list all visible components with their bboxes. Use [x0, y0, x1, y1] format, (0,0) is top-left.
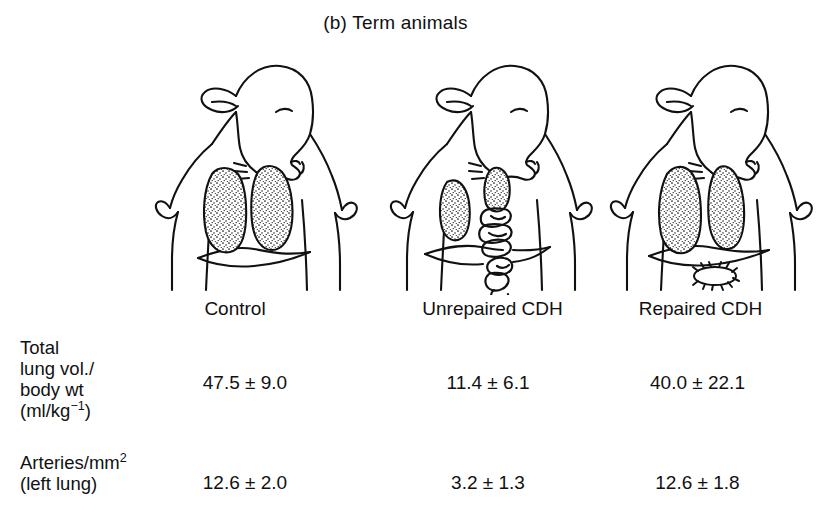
lamb-diagram-repaired-cdh	[605, 50, 817, 295]
value-lungvol-repaired: 40.0 ± 22.1	[600, 372, 795, 394]
value-lungvol-control: 47.5 ± 9.0	[165, 372, 325, 394]
column-header-unrepaired-cdh: Unrepaired CDH	[390, 298, 595, 320]
unit-close-paren: )	[85, 400, 91, 421]
bowel-loops-abdomen	[485, 258, 512, 295]
row-label-line-2: (left lung)	[20, 473, 127, 494]
row-label-line-1: Total	[20, 337, 94, 358]
arteries-text: Arteries/mm	[20, 452, 120, 473]
row-label-line-1: Arteries/mm2	[20, 452, 127, 473]
lamb-diagram-unrepaired-cdh	[385, 50, 600, 295]
arteries-exponent: 2	[120, 451, 127, 465]
page-title: (b) Term animals	[0, 12, 791, 34]
row-label-line-2: lung vol./	[20, 358, 94, 379]
row-label-line-3: body wt	[20, 379, 94, 400]
column-header-repaired-cdh: Repaired CDH	[608, 298, 793, 320]
column-header-control: Control	[160, 298, 310, 320]
row-label-total-lung-volume: Total lung vol./ body wt (ml/kg−1)	[20, 337, 94, 421]
value-arteries-repaired: 12.6 ± 1.8	[600, 472, 795, 494]
row-label-arteries-per-mm2: Arteries/mm2 (left lung)	[20, 452, 127, 494]
lamb-diagram-control	[150, 50, 365, 295]
unit-text: (ml/kg	[20, 400, 70, 421]
value-lungvol-unrepaired: 11.4 ± 6.1	[398, 372, 578, 394]
unit-exponent: −1	[70, 399, 84, 413]
row-label-line-4: (ml/kg−1)	[20, 400, 94, 421]
value-arteries-control: 12.6 ± 2.0	[165, 472, 325, 494]
value-arteries-unrepaired: 3.2 ± 1.3	[398, 472, 578, 494]
